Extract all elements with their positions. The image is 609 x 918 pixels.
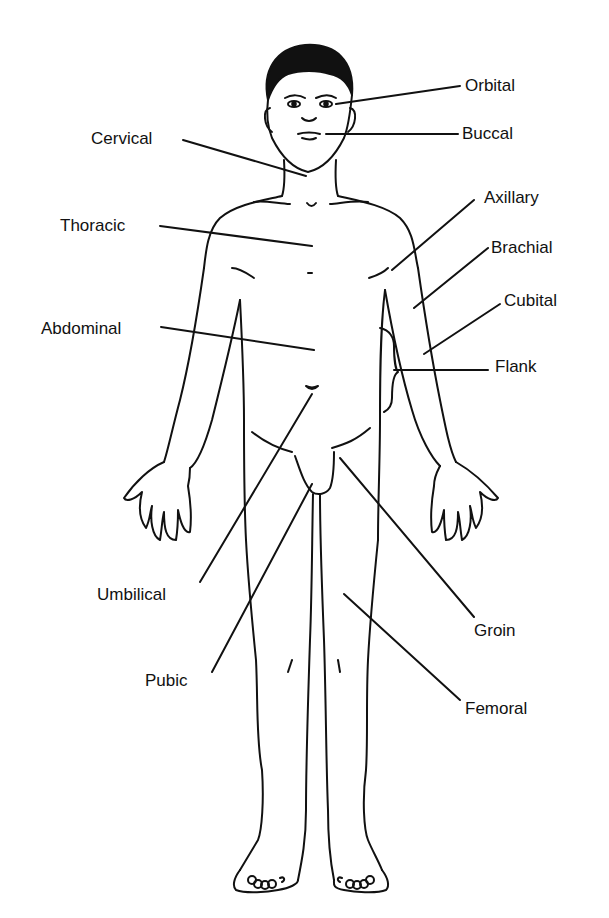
leader-femoral <box>344 594 460 700</box>
leader-cervical <box>183 140 306 176</box>
label-femoral: Femoral <box>465 700 527 717</box>
label-orbital: Orbital <box>465 77 515 94</box>
leader-brachial <box>414 248 488 308</box>
label-brachial: Brachial <box>491 239 552 256</box>
leader-cubital <box>424 304 500 354</box>
label-axillary: Axillary <box>484 189 539 206</box>
leader-umbilical <box>200 394 312 582</box>
label-pubic: Pubic <box>145 672 188 689</box>
leader-pubic <box>212 484 312 672</box>
label-umbilical: Umbilical <box>97 586 166 603</box>
leader-axillary <box>392 200 474 270</box>
leader-groin <box>340 458 474 617</box>
label-flank: Flank <box>495 358 537 375</box>
leader-lines <box>160 86 500 700</box>
hair <box>267 45 353 100</box>
anatomy-diagram: Orbital Buccal Cervical Axillary Thoraci… <box>0 0 609 918</box>
label-thoracic: Thoracic <box>60 217 125 234</box>
label-cervical: Cervical <box>91 130 152 147</box>
label-cubital: Cubital <box>504 292 557 309</box>
leader-thoracic <box>160 226 312 246</box>
label-abdominal: Abdominal <box>41 320 121 337</box>
leader-abdominal <box>161 327 314 350</box>
label-buccal: Buccal <box>462 125 513 142</box>
leader-orbital <box>336 86 460 104</box>
label-groin: Groin <box>474 622 516 639</box>
